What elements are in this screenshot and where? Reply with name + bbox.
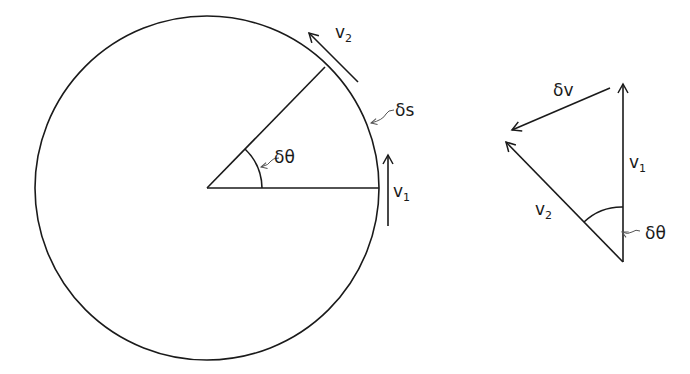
velocity-diagram: δθ v1 v2 δs δθ δv v1 v2: [0, 0, 690, 374]
triangle-v2-label: v2: [535, 199, 552, 222]
ds-pointer: [371, 110, 394, 123]
v2-label: v2: [335, 22, 352, 45]
dv-label: δv: [553, 80, 573, 100]
ds-label: δs: [395, 100, 414, 120]
triangle-dtheta-pointer: [622, 230, 640, 233]
vector-triangle: δθ δv v1 v2: [506, 80, 666, 262]
triangle-v1-label: v1: [629, 152, 646, 175]
angle-arc: [245, 149, 262, 188]
v2-vector: [506, 142, 623, 262]
circle-diagram: δθ v1 v2 δs: [35, 16, 414, 360]
v1-label: v1: [393, 181, 410, 204]
dtheta-label: δθ: [274, 147, 295, 167]
triangle-angle-arc: [584, 207, 623, 222]
radius-2: [207, 67, 325, 188]
triangle-dtheta-label: δθ: [645, 223, 666, 243]
